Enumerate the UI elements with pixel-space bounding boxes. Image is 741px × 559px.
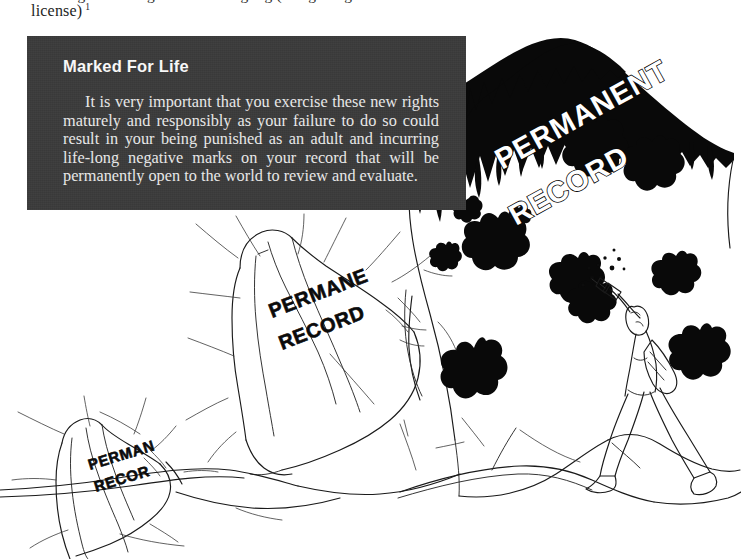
background-strokes [404, 418, 484, 448]
callout-body-text: It is very important that you exercise t… [63, 93, 439, 186]
cliff-middle [232, 230, 426, 475]
callout-title: Marked For Life [63, 57, 439, 76]
cliff-near-small [56, 419, 182, 559]
marked-for-life-callout: Marked For Life It is very important tha… [27, 36, 466, 210]
illustrated-page: standing on the edge of something big (a… [0, 0, 741, 559]
graffiti-cliff-near-small: PERMAN RECOR [86, 437, 157, 495]
